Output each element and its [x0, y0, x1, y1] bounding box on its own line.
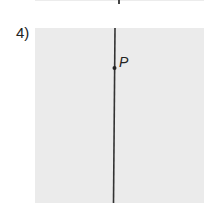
vertical-line: [114, 28, 116, 203]
point-label: P: [119, 54, 128, 70]
figure-drawing: [0, 0, 211, 211]
point-p: [113, 66, 117, 70]
